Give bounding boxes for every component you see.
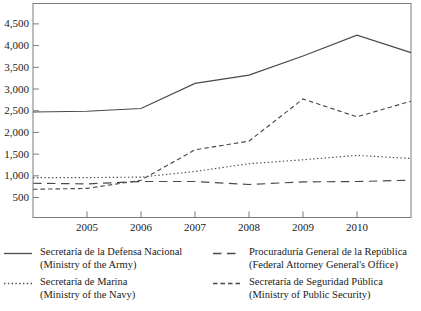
legend-shortdash-line-sample — [212, 277, 242, 290]
y-tick-label: 500 — [13, 191, 30, 203]
legend-label-es: Secretaría de la Defensa Nacional — [40, 246, 182, 259]
legend-item-procuraduria-general: Procuraduría General de la República (Fe… — [212, 246, 419, 271]
x-tick-label: 2007 — [184, 221, 207, 233]
legend-label-es: Procuraduría General de la República — [249, 246, 407, 259]
legend-label-en: (Ministry of the Navy) — [40, 289, 135, 302]
y-tick-label: 2,000 — [4, 126, 29, 138]
legend-solid-line-sample — [3, 247, 33, 260]
legend-text: Secretaría de Seguridad Pública (Ministr… — [249, 276, 383, 301]
x-tick-label: 2010 — [346, 221, 369, 233]
legend-text: Procuraduría General de la República (Fe… — [249, 246, 407, 271]
legend-item-seguridad-publica: Secretaría de Seguridad Pública (Ministr… — [212, 276, 419, 301]
plot-area: 5001,0001,5002,0002,5003,0003,5004,0004,… — [0, 0, 421, 240]
legend-label-es: Secretaría de Marina — [40, 276, 135, 289]
y-tick-label: 1,000 — [4, 169, 29, 181]
y-tick-label: 3,500 — [4, 61, 29, 73]
x-tick-label: 2009 — [292, 221, 315, 233]
legend-label-en: (Federal Attorney General's Office) — [249, 259, 407, 272]
y-tick-label: 1,500 — [4, 148, 29, 160]
legend-longdash-line-sample — [212, 247, 242, 260]
legend-item-defensa-nacional: Secretaría de la Defensa Nacional (Minis… — [3, 246, 212, 271]
budget-line-chart-figure: 5001,0001,5002,0002,5003,0003,5004,0004,… — [0, 0, 421, 311]
legend-label-en: (Ministry of the Army) — [40, 259, 182, 272]
legend-text: Secretaría de la Defensa Nacional (Minis… — [40, 246, 182, 271]
legend-text: Secretaría de Marina (Ministry of the Na… — [40, 276, 135, 301]
x-tick-label: 2008 — [238, 221, 261, 233]
x-tick-label: 2005 — [76, 221, 99, 233]
y-tick-label: 4,000 — [4, 39, 29, 51]
legend-column-left: Secretaría de la Defensa Nacional (Minis… — [3, 246, 212, 301]
y-tick-label: 2,500 — [4, 104, 29, 116]
y-tick-label: 4,500 — [4, 17, 29, 29]
legend-item-marina: Secretaría de Marina (Ministry of the Na… — [3, 276, 212, 301]
legend-column-right: Procuraduría General de la República (Fe… — [212, 246, 419, 301]
series-line-procuraduria-general — [33, 180, 411, 184]
legend-dotted-line-sample — [3, 277, 33, 290]
series-line-seguridad-publica — [33, 99, 411, 189]
series-line-defensa-nacional — [33, 35, 411, 112]
x-tick-label: 2006 — [130, 221, 153, 233]
y-tick-label: 3,000 — [4, 83, 29, 95]
legend-label-en: (Ministry of Public Security) — [249, 289, 383, 302]
series-line-marina — [33, 155, 411, 177]
chart-legend: Secretaría de la Defensa Nacional (Minis… — [3, 246, 419, 301]
legend-label-es: Secretaría de Seguridad Pública — [249, 276, 383, 289]
